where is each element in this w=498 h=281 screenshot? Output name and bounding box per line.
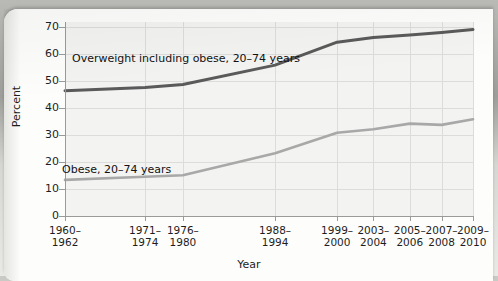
y-axis-line (65, 22, 66, 217)
y-tick-label-text: 10 (33, 183, 59, 194)
x-tick-2 (183, 216, 184, 221)
x-axis-title: Year (0, 258, 498, 271)
x-tick-label-2: 1976–1980 (157, 224, 209, 248)
x-axis-line (65, 216, 473, 217)
annotation-overweight-line2: 20–74 years (233, 52, 300, 65)
x-tick-label-line2: 1994 (249, 236, 301, 248)
y-tick-label-text: 70 (33, 21, 59, 32)
x-tick-0 (65, 216, 66, 221)
y-tick-70 (59, 27, 65, 28)
x-tick-label-line2: 1962 (39, 236, 91, 248)
y-axis-title: Percent (10, 77, 23, 137)
x-tick-6 (410, 216, 411, 221)
y-tick-50 (59, 81, 65, 82)
x-tick-4 (337, 216, 338, 221)
x-tick-label-line1: 2009– (447, 224, 498, 236)
y-tick-30 (59, 135, 65, 136)
annotation-overweight: Overweight including obese, 20–74 years (72, 52, 242, 65)
y-tick-label-text: 0 (33, 210, 59, 221)
x-tick-label-line2: 2010 (447, 236, 498, 248)
y-tick-label-text: 40 (33, 102, 59, 113)
x-tick-3 (275, 216, 276, 221)
x-tick-label-8: 2009–2010 (447, 224, 498, 248)
x-tick-1 (145, 216, 146, 221)
x-tick-7 (442, 216, 443, 221)
x-tick-8 (473, 216, 474, 221)
y-tick-60 (59, 54, 65, 55)
y-tick-10 (59, 189, 65, 190)
y-tick-40 (59, 108, 65, 109)
x-tick-label-line2: 1980 (157, 236, 209, 248)
x-tick-label-line1: 1960– (39, 224, 91, 236)
annotation-obese-line1: Obese, 20–74 years (62, 163, 171, 176)
y-tick-label-text: 60 (33, 48, 59, 59)
y-tick-label-text: 50 (33, 75, 59, 86)
x-tick-label-3: 1988–1994 (249, 224, 301, 248)
x-tick-label-line1: 1988– (249, 224, 301, 236)
y-tick-label-text: 20 (33, 156, 59, 167)
annotation-obese: Obese, 20–74 years (62, 163, 212, 176)
x-tick-label-0: 1960–1962 (39, 224, 91, 248)
y-tick-label-text: 30 (33, 129, 59, 140)
x-tick-label-line1: 1976– (157, 224, 209, 236)
annotation-overweight-line1: Overweight including obese, (72, 52, 229, 65)
x-tick-5 (373, 216, 374, 221)
